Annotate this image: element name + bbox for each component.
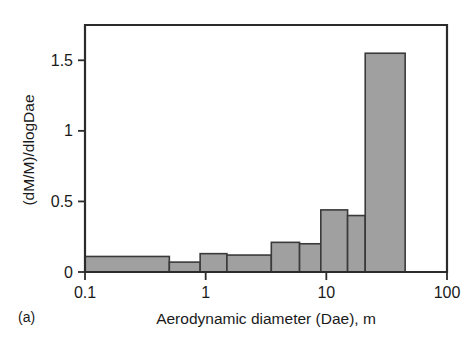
- bar-4: [271, 242, 299, 272]
- panel-label: (a): [18, 309, 35, 325]
- bar-0: [85, 256, 169, 272]
- bar-2: [200, 254, 227, 272]
- bar-1: [169, 262, 200, 272]
- figure-panel-a: 00.511.5 0.1110100 Aerodynamic diameter …: [0, 0, 472, 340]
- bar-6: [321, 210, 348, 272]
- x-tick-label-1: 1: [201, 284, 210, 301]
- x-tick-label-0: 0.1: [74, 284, 96, 301]
- bar-5: [300, 244, 321, 272]
- x-tick-label-2: 10: [317, 284, 335, 301]
- bar-3: [227, 255, 271, 272]
- bar-7: [348, 216, 366, 272]
- bar-8: [365, 53, 405, 272]
- histogram-chart: 00.511.5 0.1110100 Aerodynamic diameter …: [0, 0, 472, 340]
- y-tick-label-1: 0.5: [51, 193, 73, 210]
- x-tick-label-3: 100: [434, 284, 461, 301]
- y-tick-label-0: 0: [64, 264, 73, 281]
- y-axis-title: (dM/M)/dlogDae: [20, 94, 37, 205]
- y-tick-label-2: 1: [64, 122, 73, 139]
- x-axis-title: Aerodynamic diameter (Dae), m: [156, 310, 376, 327]
- y-tick-label-3: 1.5: [51, 52, 73, 69]
